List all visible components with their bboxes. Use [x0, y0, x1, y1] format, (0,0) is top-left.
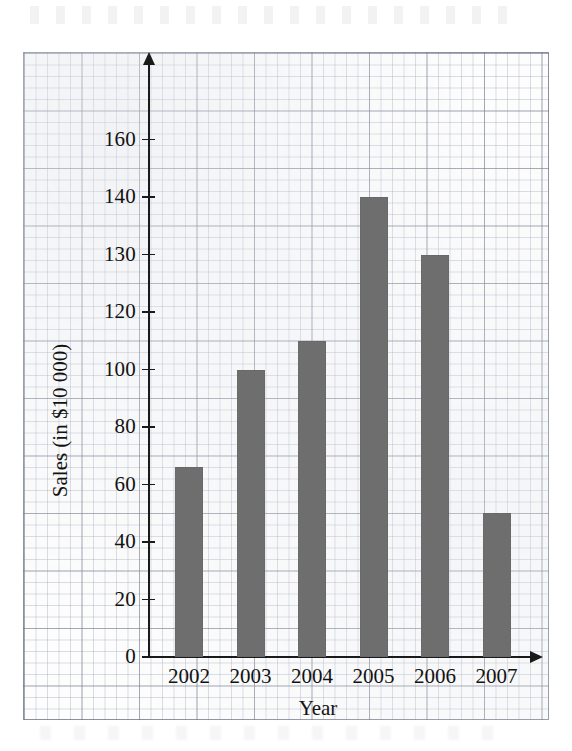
- bar-2005: [360, 197, 388, 657]
- x-axis-arrow-icon: [530, 651, 543, 663]
- y-axis-tick-label-text: 80: [74, 416, 136, 437]
- x-axis-tick-label: 2004: [280, 664, 344, 688]
- x-axis-tick-label: 2002: [157, 664, 221, 688]
- y-axis-tick-label: 40: [74, 531, 136, 552]
- y-axis-tick: [142, 369, 155, 371]
- x-axis-tick-label: 2005: [342, 664, 406, 688]
- y-axis-tick-label: 160: [74, 129, 136, 150]
- y-axis-tick-label: 60: [74, 474, 136, 495]
- y-axis-tick-label: 100: [74, 359, 136, 380]
- y-axis-tick-label-text: 0: [74, 646, 136, 667]
- chart-page: 020406080100120130140160 200220032004200…: [0, 0, 572, 751]
- y-axis-tick-label-text: 120: [74, 301, 136, 322]
- y-axis-tick: [142, 196, 155, 198]
- y-axis-tick: [142, 254, 155, 256]
- y-axis-line: [148, 62, 150, 658]
- y-axis-tick-label-text: 20: [74, 589, 136, 610]
- bar-2006: [421, 255, 449, 658]
- y-axis-tick-label: 80: [74, 416, 136, 437]
- y-axis-tick: [142, 599, 155, 601]
- y-axis-tick-label-text: 40: [74, 531, 136, 552]
- y-axis-tick: [142, 311, 155, 313]
- y-axis-tick-label: 130: [74, 244, 136, 265]
- bar-chart-plot: 020406080100120130140160 200220032004200…: [0, 0, 572, 751]
- x-axis-line: [148, 656, 532, 658]
- y-axis-tick-label-text: 130: [74, 244, 136, 265]
- bar-2003: [237, 370, 265, 658]
- y-axis-tick: [142, 484, 155, 486]
- y-axis-title: Sales (in $10 000): [48, 301, 73, 541]
- bar-2004: [298, 341, 326, 657]
- y-axis-tick-label-text: 160: [74, 129, 136, 150]
- x-axis-title: Year: [228, 696, 408, 721]
- y-axis-tick-label: 120: [74, 301, 136, 322]
- x-axis-tick-label: 2007: [465, 664, 529, 688]
- y-axis-tick-label-text: 100: [74, 359, 136, 380]
- y-axis-tick-label: 140: [74, 186, 136, 207]
- y-axis-tick: [142, 139, 155, 141]
- y-axis-arrow-icon: [143, 52, 155, 65]
- y-axis-tick-label: 20: [74, 589, 136, 610]
- bar-2007: [483, 513, 511, 657]
- bar-2002: [175, 467, 203, 657]
- x-axis-tick-label: 2006: [403, 664, 467, 688]
- x-axis-tick-label: 2003: [219, 664, 283, 688]
- y-axis-tick-label-text: 140: [74, 186, 136, 207]
- y-axis-tick: [142, 426, 155, 428]
- y-axis-tick-label-text: 60: [74, 474, 136, 495]
- y-axis-tick: [142, 541, 155, 543]
- y-axis-tick: [142, 656, 155, 658]
- y-axis-tick-label: 0: [74, 646, 136, 667]
